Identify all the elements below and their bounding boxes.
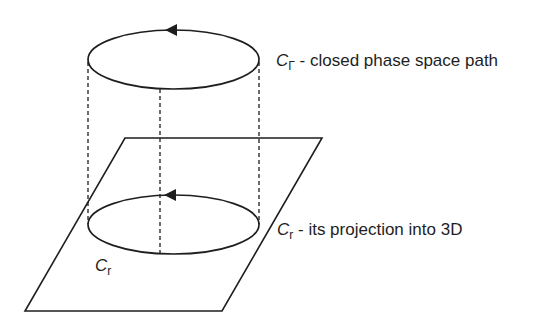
closed-phase-space-path: [88, 30, 259, 89]
projected-path: [88, 195, 259, 254]
top-direction-arrow-icon: [165, 24, 177, 36]
phase-space-projection-diagram: CΓ - closed phase space path Cr - its pr…: [0, 0, 555, 331]
bottom-direction-arrow-icon: [164, 189, 176, 201]
bottom-path-label: Cr: [95, 256, 111, 278]
projection-label: Cr - its projection into 3D: [277, 220, 462, 242]
top-path-label: CΓ - closed phase space path: [276, 51, 498, 73]
